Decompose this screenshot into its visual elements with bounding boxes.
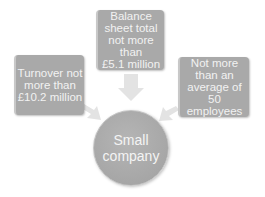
- criterion-balance-sheet: Balance sheet total not more than £5.1 m…: [96, 10, 164, 70]
- criterion-label: Balance sheet total not more than £5.1 m…: [98, 10, 164, 70]
- arrow-down-icon: [118, 74, 144, 101]
- criterion-label: Turnover not more than £10.2 million: [18, 67, 83, 103]
- criterion-employees: Not more than an average of 50 employees: [178, 57, 249, 117]
- arrow-right-down-icon: [81, 104, 101, 120]
- small-company-node: Small company: [93, 110, 169, 186]
- criterion-label: Not more than an average of 50 employees: [180, 57, 249, 117]
- arrow-left-down-icon: [159, 106, 179, 121]
- center-label: Small company: [103, 132, 160, 164]
- criterion-turnover: Turnover not more than £10.2 million: [14, 55, 84, 115]
